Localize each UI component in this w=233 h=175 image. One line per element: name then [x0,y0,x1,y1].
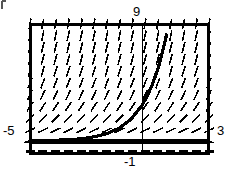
axis-label-top: 9 [133,5,140,18]
axis-label-bottom: -1 [124,155,136,168]
slope-field-figure: 9 -5 3 -1 [0,0,233,175]
plot-canvas [0,0,233,175]
corner-crop-mark-icon [2,1,6,9]
axis-label-right: 3 [217,124,224,137]
axis-label-left: -5 [3,124,15,137]
